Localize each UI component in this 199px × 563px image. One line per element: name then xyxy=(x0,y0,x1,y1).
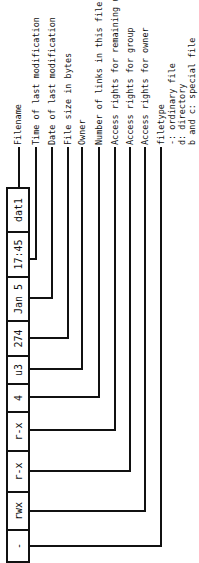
label-date: Date of last modification xyxy=(47,17,57,145)
note-special: b and c: special file xyxy=(187,38,197,145)
leader-line xyxy=(30,510,145,512)
field-box-group-rights: r-x xyxy=(6,450,30,493)
note-ordinary: -: ordinary file xyxy=(167,63,177,145)
label-size: File size in bytes xyxy=(63,53,73,145)
field-box-date: Jan 5 xyxy=(6,276,30,322)
leader-line xyxy=(67,147,69,339)
field-value: r-x xyxy=(13,462,24,480)
label-group-rights: Access rights for group xyxy=(125,27,135,145)
leader-line xyxy=(30,297,53,299)
note-directory: d: directory xyxy=(177,84,187,145)
field-value: Jan 5 xyxy=(13,284,24,314)
leader-line xyxy=(144,147,146,512)
leader-line xyxy=(30,545,162,547)
leader-line xyxy=(30,337,69,339)
field-box-filetype: - xyxy=(6,529,30,563)
label-filetype: filetype xyxy=(156,104,166,145)
leader-line xyxy=(51,147,53,299)
leader-line xyxy=(114,147,116,431)
leader-line xyxy=(129,147,131,472)
leader-line xyxy=(30,396,99,398)
field-value: 4 xyxy=(13,395,24,401)
label-other-rights: Access rights for remaining users xyxy=(110,0,120,145)
leader-line xyxy=(35,147,37,260)
leader-line xyxy=(81,147,83,370)
field-box-time: 17:45 xyxy=(6,231,30,278)
field-value: - xyxy=(13,543,24,549)
label-owner-rights: Access rights for owner xyxy=(140,27,150,145)
field-value: 274 xyxy=(13,329,24,347)
field-box-filename: dat1 xyxy=(6,187,30,233)
field-value: 17:45 xyxy=(13,239,24,269)
field-box-size: 274 xyxy=(6,320,30,357)
leader-line xyxy=(160,147,162,547)
field-value: dat1 xyxy=(13,198,24,222)
label-links: Number of links in this file xyxy=(94,2,104,145)
label-filename: Filename xyxy=(13,104,23,145)
leader-line xyxy=(18,147,20,187)
field-box-owner-rights: rwx xyxy=(6,491,30,531)
leader-line xyxy=(98,147,100,398)
field-value: rwx xyxy=(13,502,24,520)
ls-diagram: - rwx r-x r-x 4 u3 274 Jan 5 17:45 dat1 … xyxy=(0,0,199,563)
field-value: r-x xyxy=(13,422,24,440)
field-box-other-rights: r-x xyxy=(6,411,30,452)
label-owner: Owner xyxy=(77,119,87,145)
label-time: Time of last modification xyxy=(31,17,41,145)
field-box-owner: u3 xyxy=(6,355,30,385)
leader-line xyxy=(30,470,130,472)
field-box-links: 4 xyxy=(6,383,30,413)
leader-line xyxy=(30,429,115,431)
leader-line xyxy=(30,368,83,370)
field-value: u3 xyxy=(13,364,24,376)
